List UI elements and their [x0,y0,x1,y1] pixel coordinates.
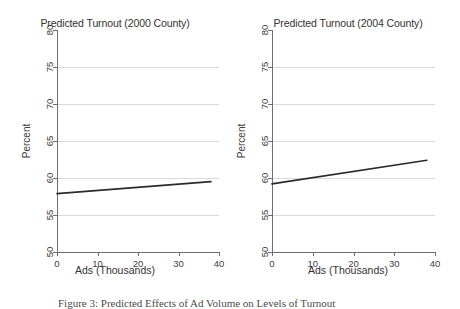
series-line-left-0 [57,182,211,194]
y-tick-label-left-65: 65 [44,136,55,147]
y-tick-label-left-50: 50 [44,247,55,258]
plot-area-2000: 50556065707580010203040Percent [0,0,230,290]
y-axis-label-right: Percent [236,124,247,159]
y-tick-label-right-80: 80 [259,25,270,36]
chart-panel-2004: Predicted Turnout (2004 County) 50556065… [228,0,460,290]
chart-panel-2000: Predicted Turnout (2000 County) 50556065… [0,0,230,290]
y-tick-label-right-50: 50 [259,247,270,258]
figure-caption: Figure 3: Predicted Effects of Ad Volume… [58,296,458,309]
y-tick-label-left-70: 70 [44,99,55,110]
x-axis-label-2000: Ads (Thousands) [0,264,230,276]
y-tick-label-left-75: 75 [44,62,55,73]
y-tick-label-right-65: 65 [259,136,270,147]
y-tick-label-left-60: 60 [44,173,55,184]
x-axis-label-2004: Ads (Thousands) [228,264,460,276]
y-axis-label-left: Percent [21,124,32,159]
y-tick-label-left-80: 80 [44,25,55,36]
series-line-right-0 [272,160,427,184]
y-tick-label-right-55: 55 [259,210,270,221]
figure-container: Predicted Turnout (2000 County) 50556065… [0,0,460,309]
y-tick-label-right-75: 75 [259,62,270,73]
y-tick-label-right-70: 70 [259,99,270,110]
y-tick-label-left-55: 55 [44,210,55,221]
y-tick-label-right-60: 60 [259,173,270,184]
plot-area-2004: 50556065707580010203040Percent [228,0,460,290]
